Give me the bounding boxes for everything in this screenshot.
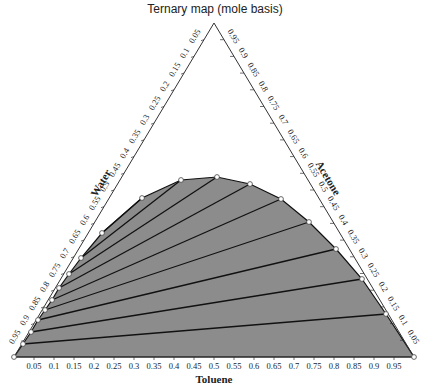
tick-label: 0.35 [345, 228, 361, 246]
data-point [29, 330, 34, 335]
data-point [36, 318, 41, 323]
tick-label: 0.3 [129, 361, 140, 371]
tick-label: 0.9 [237, 46, 251, 60]
tick-label: 0.1 [49, 361, 60, 371]
data-point [79, 256, 84, 261]
data-point [12, 355, 17, 360]
data-point [43, 308, 48, 313]
tick-label: 0.9 [17, 313, 31, 327]
tick-label: 0.75 [265, 94, 281, 112]
tick-label: 0.5 [209, 361, 220, 371]
tick-label: 0.65 [267, 361, 282, 371]
tick-label: 0.4 [169, 361, 180, 371]
tick-label: 0.25 [146, 94, 162, 112]
data-point [21, 342, 26, 347]
tick-label: 0.75 [46, 261, 62, 279]
data-point [248, 182, 253, 187]
tick-label: 0.05 [405, 328, 421, 346]
tick-label: 0.15 [67, 361, 82, 371]
tick-label: 0.15 [385, 294, 401, 312]
tick-label: 0.9 [369, 361, 380, 371]
data-point [100, 231, 105, 236]
data-point [334, 247, 339, 252]
tick-label: 0.8 [37, 280, 51, 294]
data-point [140, 196, 145, 201]
tick-label: 0.6 [77, 213, 91, 227]
tick-label: 0.05 [27, 361, 42, 371]
tick-label: 0.35 [126, 127, 142, 145]
axis-label-acetone: Acetone [314, 159, 344, 198]
data-point [50, 298, 55, 303]
chart-title: Ternary map (mole basis) [147, 2, 282, 16]
tick-label: 0.95 [225, 27, 241, 45]
tick-label: 0.3 [137, 113, 151, 127]
tick-label: 0.85 [347, 361, 362, 371]
tick-label: 0.6 [249, 361, 260, 371]
data-point [360, 277, 365, 282]
tick-label: 0.35 [147, 361, 162, 371]
tick-label: 0.95 [387, 361, 402, 371]
tick-label: 0.85 [26, 294, 42, 312]
tick-label: 0.7 [277, 113, 291, 127]
tick-label: 0.15 [166, 61, 182, 79]
tick-label: 0.2 [377, 280, 391, 294]
data-point [384, 312, 389, 317]
tick-label: 0.1 [397, 313, 411, 327]
tick-label: 0.4 [117, 145, 131, 160]
data-point [279, 197, 284, 202]
tick-label: 0.25 [365, 261, 381, 279]
tick-label: 0.45 [187, 361, 202, 371]
tick-label: 0.75 [307, 361, 322, 371]
tick-label: 0.8 [257, 79, 271, 93]
tick-label: 0.2 [89, 361, 100, 371]
tick-label: 0.95 [6, 328, 22, 346]
axis-label-toluene: Toluene [196, 373, 233, 385]
data-point [179, 178, 184, 183]
tick-label: 0.65 [66, 228, 82, 246]
tick-label: 0.65 [285, 127, 301, 145]
data-point [412, 355, 417, 360]
tick-label: 0.85 [245, 61, 261, 79]
tick-label: 0.25 [107, 361, 122, 371]
tick-label: 0.1 [177, 46, 191, 60]
tick-label: 0.7 [57, 246, 71, 260]
tick-label: 0.55 [227, 361, 242, 371]
tick-label: 0.6 [297, 146, 311, 160]
axis-label-water: Water [88, 167, 113, 198]
tick-label: 0.4 [337, 213, 351, 228]
tick-label: 0.2 [157, 79, 171, 93]
data-point [57, 286, 62, 291]
tick-label: 0.7 [289, 361, 300, 371]
ternary-chart: Ternary map (mole basis) 0.050.10.150.20… [0, 0, 427, 391]
data-point [215, 175, 220, 180]
data-point [67, 272, 72, 277]
tick-label: 0.3 [357, 246, 371, 260]
tick-label: 0.05 [186, 27, 202, 45]
tick-label: 0.8 [329, 361, 340, 371]
data-point [307, 220, 312, 225]
